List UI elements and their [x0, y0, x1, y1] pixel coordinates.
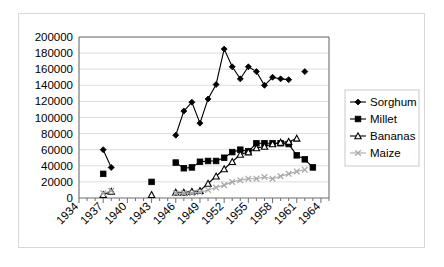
data-point-millet	[310, 165, 316, 171]
x-tick-label: 1961	[272, 200, 299, 227]
y-tick-label: 60000	[41, 144, 73, 156]
legend-label: Sorghum	[370, 96, 417, 108]
data-point-millet	[213, 158, 219, 164]
y-tick-label: 40000	[41, 160, 73, 172]
data-point-millet	[100, 171, 106, 177]
data-point-millet	[197, 159, 203, 165]
y-tick-label: 100000	[35, 112, 73, 124]
legend-marker-filled-square	[355, 116, 361, 122]
data-point-millet	[149, 179, 155, 185]
line-chart: 0200004000060000800001000001200001400001…	[19, 14, 424, 247]
data-point-millet	[229, 149, 235, 155]
data-point-bananas	[148, 192, 154, 198]
y-tick-label: 140000	[35, 79, 73, 91]
x-tick-label: 1946	[151, 200, 178, 227]
data-point-sorghum	[100, 147, 106, 153]
y-axis-tick-labels: 0200004000060000800001000001200001400001…	[35, 31, 73, 204]
y-tick-label: 80000	[41, 128, 73, 140]
data-point-sorghum	[213, 81, 219, 87]
chart-legend: SorghumMilletBananasMaize	[345, 90, 419, 166]
data-point-sorghum	[237, 76, 243, 82]
y-tick-label: 160000	[35, 63, 73, 75]
data-point-millet	[181, 165, 187, 171]
y-tick-label: 200000	[35, 31, 73, 43]
data-point-sorghum	[286, 77, 292, 83]
x-tick-label: 1943	[126, 200, 153, 227]
data-point-sorghum	[221, 46, 227, 52]
x-tick-label: 1952	[199, 200, 226, 227]
series-line-sorghum	[103, 150, 111, 168]
x-tick-label: 1949	[175, 200, 202, 227]
chart-container: 0200004000060000800001000001200001400001…	[18, 13, 425, 248]
x-tick-label: 1934	[54, 200, 81, 227]
legend-label: Millet	[370, 113, 398, 125]
x-tick-label: 1937	[78, 200, 105, 227]
y-tick-label: 120000	[35, 95, 73, 107]
data-point-bananas	[294, 135, 300, 141]
series-line-sorghum	[176, 49, 289, 135]
data-point-millet	[189, 165, 195, 171]
series-sorghum	[100, 46, 308, 170]
x-tick-label: 1964	[296, 200, 323, 227]
data-point-maize	[213, 185, 219, 191]
y-tick-label: 180000	[35, 47, 73, 59]
data-point-sorghum	[278, 76, 284, 82]
data-point-millet	[173, 160, 179, 166]
data-point-maize	[205, 187, 211, 193]
data-point-maize	[278, 173, 284, 179]
x-tick-label: 1955	[223, 200, 250, 227]
x-tick-label: 1940	[102, 200, 129, 227]
x-axis-tick-labels: 1934193719401943194619491952195519581961…	[54, 200, 323, 227]
x-tick-label: 1958	[247, 200, 274, 227]
legend-label: Bananas	[370, 130, 416, 142]
data-point-millet	[302, 157, 308, 163]
y-tick-label: 20000	[41, 176, 73, 188]
data-point-sorghum	[197, 120, 203, 126]
data-point-millet	[221, 155, 227, 161]
data-point-maize	[286, 171, 292, 177]
series-millet	[100, 140, 315, 184]
legend-label: Maize	[370, 147, 401, 159]
data-point-millet	[205, 158, 211, 164]
series-bananas	[100, 135, 300, 197]
series-line-millet	[176, 143, 313, 168]
data-point-maize	[221, 182, 227, 188]
data-point-millet	[294, 153, 300, 159]
